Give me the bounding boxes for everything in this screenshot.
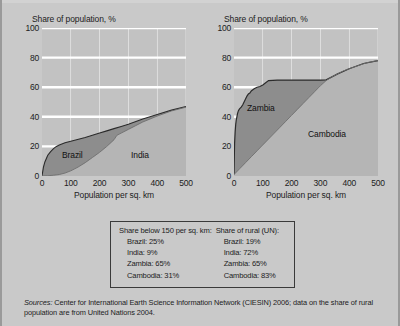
xtick-300: 300 bbox=[314, 178, 328, 188]
chart-left-ylabel: Share of population, % bbox=[32, 14, 116, 24]
stats-column-rural: Share of rural (UN): Brazil: 19% India: … bbox=[212, 226, 294, 281]
sources-text: Center for International Earth Science I… bbox=[24, 298, 373, 317]
ytick-60: 60 bbox=[222, 82, 231, 92]
stats-item: India: 72% bbox=[216, 247, 294, 258]
ytick-60: 60 bbox=[30, 82, 39, 92]
chart-left-xlabel: Population per sq. km bbox=[42, 190, 186, 200]
stats-item: Brazil: 19% bbox=[216, 236, 294, 247]
sources-note: Sources: Center for International Earth … bbox=[24, 298, 382, 318]
ytick-80: 80 bbox=[30, 53, 39, 63]
xtick-200: 200 bbox=[285, 178, 299, 188]
sources-label: Sources: bbox=[24, 298, 52, 307]
chart-right-plot bbox=[234, 28, 378, 176]
stats-item: Zambia: 65% bbox=[119, 258, 212, 269]
stats-item: Cambodia: 31% bbox=[119, 270, 212, 281]
xtick-400: 400 bbox=[150, 178, 164, 188]
xtick-400: 400 bbox=[342, 178, 356, 188]
chart-right-ylabel: Share of population, % bbox=[224, 14, 308, 24]
stats-item: Zambia: 65% bbox=[216, 258, 294, 269]
series-label-zambia: Zambia bbox=[247, 103, 275, 113]
stats-column-density: Share below 150 per sq. km: Brazil: 25% … bbox=[111, 226, 212, 281]
series-label-cambodia: Cambodia bbox=[308, 129, 346, 139]
xtick-200: 200 bbox=[93, 178, 107, 188]
ytick-40: 40 bbox=[222, 112, 231, 122]
chart-zambia-cambodia: Share of population, % 0 20 40 60 80 100 bbox=[204, 14, 386, 210]
ytick-0: 0 bbox=[34, 171, 39, 181]
xtick-0: 0 bbox=[40, 178, 45, 188]
xtick-500: 500 bbox=[179, 178, 193, 188]
ytick-100: 100 bbox=[25, 23, 39, 33]
ytick-100: 100 bbox=[217, 23, 231, 33]
series-label-india: India bbox=[131, 150, 149, 160]
stats-heading-rural: Share of rural (UN): bbox=[216, 226, 294, 235]
top-divider bbox=[2, 0, 398, 3]
ytick-80: 80 bbox=[222, 53, 231, 63]
series-label-brazil: Brazil bbox=[62, 150, 83, 160]
stats-item: Brazil: 25% bbox=[119, 236, 212, 247]
stats-box: Share below 150 per sq. km: Brazil: 25% … bbox=[110, 221, 295, 288]
stats-heading-density: Share below 150 per sq. km: bbox=[119, 226, 212, 235]
chart-right-xlabel: Population per sq. km bbox=[234, 190, 378, 200]
xtick-0: 0 bbox=[232, 178, 237, 188]
stats-item: Cambodia: 83% bbox=[216, 270, 294, 281]
ytick-20: 20 bbox=[222, 141, 231, 151]
xtick-500: 500 bbox=[371, 178, 385, 188]
chart-right-yaxis: 0 20 40 60 80 100 bbox=[204, 28, 234, 176]
stats-item: India: 9% bbox=[119, 247, 212, 258]
ytick-20: 20 bbox=[30, 141, 39, 151]
figure-panel: Share of population, % 0 20 40 60 80 100 bbox=[0, 0, 400, 326]
chart-right-svg bbox=[234, 28, 378, 176]
chart-brazil-india: Share of population, % 0 20 40 60 80 100 bbox=[12, 14, 194, 210]
ytick-0: 0 bbox=[226, 171, 231, 181]
xtick-100: 100 bbox=[256, 178, 270, 188]
chart-left-yaxis: 0 20 40 60 80 100 bbox=[12, 28, 42, 176]
xtick-100: 100 bbox=[64, 178, 78, 188]
ytick-40: 40 bbox=[30, 112, 39, 122]
xtick-300: 300 bbox=[122, 178, 136, 188]
